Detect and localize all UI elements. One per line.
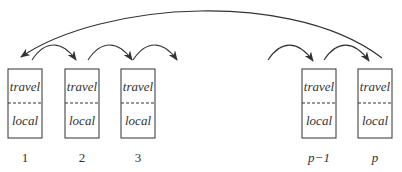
processor-index: 2 xyxy=(79,150,86,165)
travel-label: travel xyxy=(67,79,98,94)
travel-label: travel xyxy=(123,79,154,94)
shift-arrow-prev-pm1 xyxy=(268,45,313,61)
local-label: local xyxy=(362,113,388,128)
shift-arrow-pm1-p xyxy=(324,45,369,61)
ring-shift-diagram: travel local 1 travel local 2 travel loc… xyxy=(0,0,402,172)
processor-1: travel local 1 xyxy=(8,69,42,165)
shift-arrow-2-3 xyxy=(88,45,132,60)
travel-label: travel xyxy=(360,79,391,94)
wrap-around-arrow xyxy=(21,11,382,58)
local-label: local xyxy=(12,113,38,128)
shift-arrow-3-next xyxy=(133,45,177,60)
processor-p-minus-1: travel local p−1 xyxy=(302,69,336,165)
travel-label: travel xyxy=(10,79,41,94)
processor-p: travel local p xyxy=(358,69,392,165)
local-label: local xyxy=(125,113,151,128)
processor-index: p−1 xyxy=(307,150,330,165)
processor-index: p xyxy=(371,150,379,165)
processor-index: 1 xyxy=(22,150,29,165)
travel-label: travel xyxy=(304,79,335,94)
processor-2: travel local 2 xyxy=(65,69,99,165)
processor-index: 3 xyxy=(135,150,142,165)
shift-arrow-1-2 xyxy=(32,45,76,60)
local-label: local xyxy=(306,113,332,128)
processor-3: travel local 3 xyxy=(121,69,155,165)
local-label: local xyxy=(69,113,95,128)
